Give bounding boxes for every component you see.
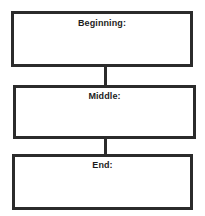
beginning-box-label: Beginning: — [14, 18, 190, 29]
end-box-label: End: — [15, 160, 190, 171]
story-sequence-organizer: Beginning: Middle: End: — [0, 0, 205, 216]
middle-box[interactable]: Middle: — [13, 85, 196, 139]
end-box[interactable]: End: — [12, 154, 193, 210]
middle-box-label: Middle: — [16, 91, 193, 102]
connector-beginning-to-middle — [104, 66, 107, 86]
beginning-box[interactable]: Beginning: — [11, 11, 193, 67]
connector-middle-to-end — [104, 138, 107, 155]
